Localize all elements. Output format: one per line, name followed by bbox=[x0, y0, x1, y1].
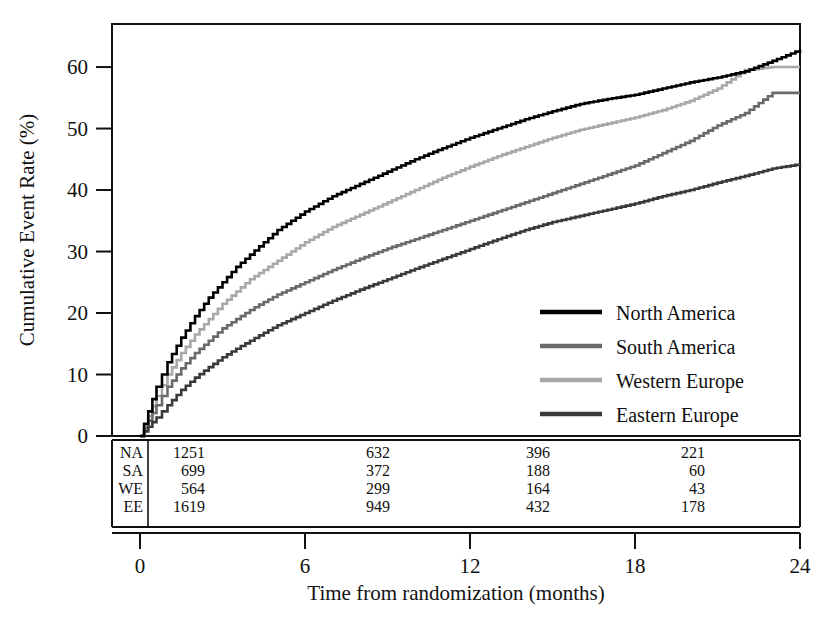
risk-row-label: WE bbox=[118, 480, 143, 497]
y-tick-label: 0 bbox=[78, 424, 89, 448]
y-tick-label: 20 bbox=[67, 301, 88, 325]
legend-label: South America bbox=[616, 336, 736, 358]
x-tick-label: 18 bbox=[625, 554, 646, 578]
y-tick-label: 40 bbox=[67, 178, 88, 202]
y-axis-title: Cumulative Event Rate (%) bbox=[15, 114, 39, 347]
chart-canvas: 0102030405060 North AmericaSouth America… bbox=[0, 0, 826, 626]
risk-value: 221 bbox=[681, 444, 705, 461]
kaplan-meier-figure: 0102030405060 North AmericaSouth America… bbox=[0, 0, 826, 626]
risk-value: 632 bbox=[366, 444, 390, 461]
risk-value: 564 bbox=[181, 480, 205, 497]
risk-value: 164 bbox=[526, 480, 550, 497]
legend-label: Western Europe bbox=[616, 370, 744, 393]
risk-row-label: SA bbox=[123, 462, 144, 479]
risk-value: 1619 bbox=[173, 498, 205, 515]
x-tick-label: 12 bbox=[460, 554, 481, 578]
y-tick-label: 60 bbox=[67, 55, 88, 79]
x-axis-title: Time from randomization (months) bbox=[307, 581, 604, 605]
x-tick-label: 24 bbox=[790, 554, 812, 578]
risk-value: 60 bbox=[689, 462, 705, 479]
y-tick-label: 50 bbox=[67, 117, 88, 141]
y-tick-label: 30 bbox=[67, 240, 88, 264]
risk-value: 396 bbox=[526, 444, 550, 461]
risk-row-label: EE bbox=[123, 498, 143, 515]
risk-value: 188 bbox=[526, 462, 550, 479]
risk-value: 432 bbox=[526, 498, 550, 515]
risk-value: 1251 bbox=[173, 444, 205, 461]
legend-label: Eastern Europe bbox=[616, 404, 739, 427]
risk-value: 299 bbox=[366, 480, 390, 497]
risk-value: 178 bbox=[681, 498, 705, 515]
risk-value: 372 bbox=[366, 462, 390, 479]
risk-value: 699 bbox=[181, 462, 205, 479]
legend-label: North America bbox=[616, 302, 736, 324]
risk-value: 949 bbox=[366, 498, 390, 515]
x-tick-label: 0 bbox=[135, 554, 146, 578]
risk-row-label: NA bbox=[120, 444, 144, 461]
x-tick-label: 6 bbox=[300, 554, 311, 578]
risk-value: 43 bbox=[689, 480, 705, 497]
y-tick-label: 10 bbox=[67, 363, 88, 387]
